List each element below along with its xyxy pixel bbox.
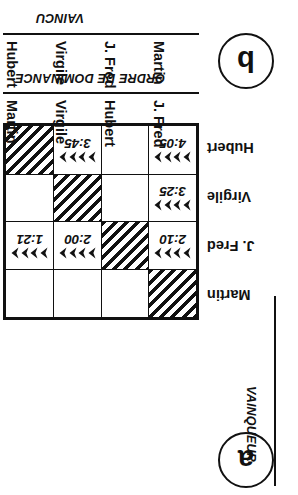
rank-label-2: Hubert xyxy=(101,96,150,188)
row-label-j-fred: J. Fred xyxy=(202,222,274,271)
dart-arrow-icon-group xyxy=(60,247,97,260)
matrix-cell-time: 2:10 xyxy=(160,232,186,246)
matrix-cell: 1:21 xyxy=(6,222,54,270)
rank-label-4: Martin xyxy=(3,96,52,188)
dart-arrow-icon-group xyxy=(155,199,192,212)
dart-arrow-icon-group xyxy=(155,247,192,260)
matrix-cell-time: 1:21 xyxy=(17,232,43,246)
rank-label-text: Virgile xyxy=(53,100,69,144)
ordre-de-dominance-title: ORDRE DE DOMINANCE xyxy=(10,71,170,85)
panel-b-badge: b xyxy=(218,33,274,89)
matrix-cell xyxy=(101,222,149,270)
row-label-virgile: Virgile xyxy=(202,173,274,222)
matrix-cell xyxy=(54,269,102,317)
panel-a: a VAINQUEUR Martin J. Fred Virgile Huber… xyxy=(0,155,298,495)
matrix-cell xyxy=(149,269,197,317)
matrix-cell: 2:00 xyxy=(54,222,102,270)
rank-label-3: Virgile xyxy=(52,96,101,188)
panel-b: b J. Fred Hubert Virgile Martin ORDRE DE… xyxy=(0,0,298,155)
rank-label-text: Hubert xyxy=(102,100,118,147)
matrix-cell xyxy=(6,269,54,317)
rank-label-text: Martin xyxy=(4,100,20,144)
matrix-cell: 2:10 xyxy=(149,222,197,270)
matrix-cell-time: 2:00 xyxy=(65,232,91,246)
vainqueur-axis-rule xyxy=(274,296,276,486)
rank-label-1: J. Fred xyxy=(150,96,199,188)
ordre-axis-rule xyxy=(3,92,199,94)
rank-label-text: J. Fred xyxy=(151,100,167,148)
figure: a VAINQUEUR Martin J. Fred Virgile Huber… xyxy=(0,0,298,495)
vainqueur-axis-title: VAINQUEUR xyxy=(244,368,258,480)
dart-arrow-icon-group xyxy=(12,247,49,260)
matrix-cell xyxy=(101,269,149,317)
figure-rotation-wrapper: a VAINQUEUR Martin J. Fred Virgile Huber… xyxy=(0,0,298,495)
row-label-martin: Martin xyxy=(202,271,274,320)
